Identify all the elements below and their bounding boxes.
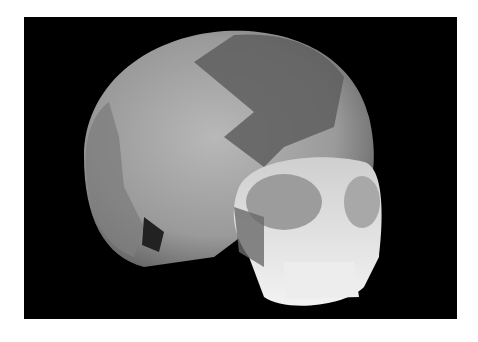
skull-photograph — [24, 17, 457, 319]
skull-face — [234, 157, 382, 305]
